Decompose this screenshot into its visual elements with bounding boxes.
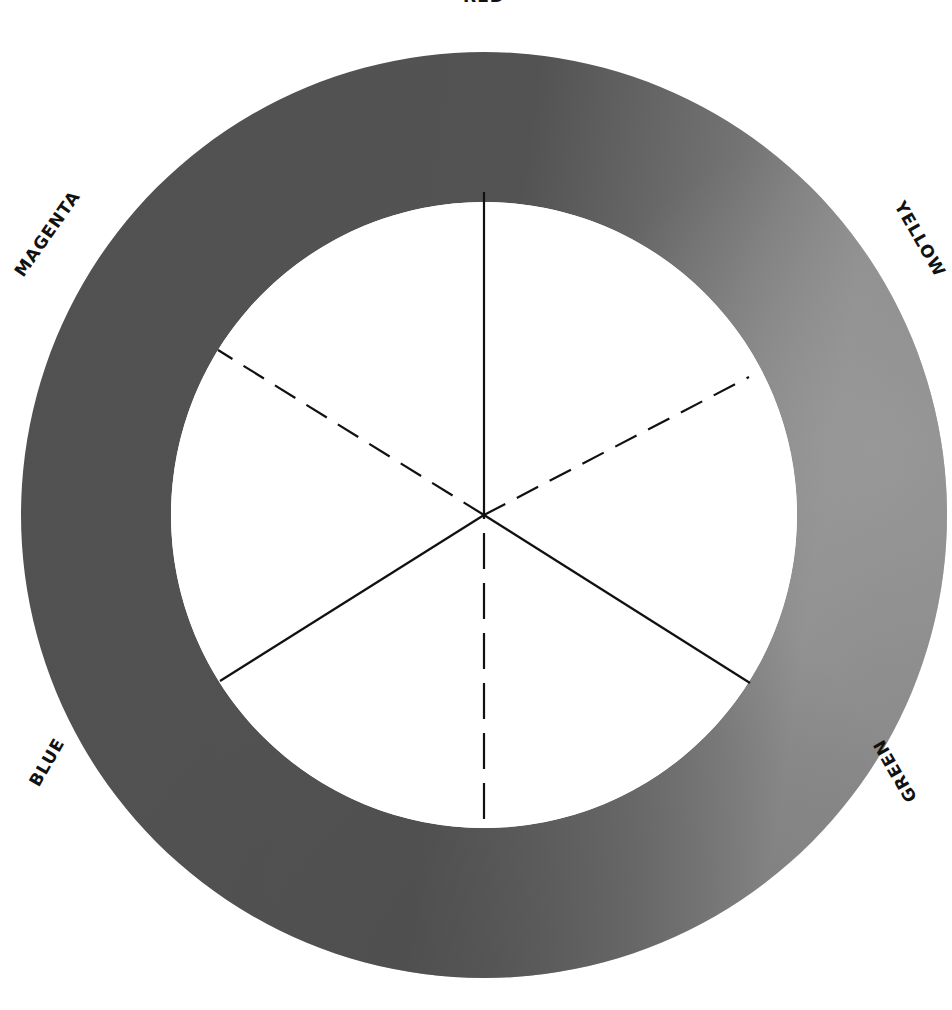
label-blue: BLUE [25,734,69,790]
label-yellow: YELLOW [890,197,950,281]
color-wheel-diagram: RED YELLOW MAGENTA GREEN BLUE [0,0,952,1010]
label-magenta: MAGENTA [10,187,84,281]
label-green: GREEN [869,736,921,806]
label-red: RED [463,0,505,6]
